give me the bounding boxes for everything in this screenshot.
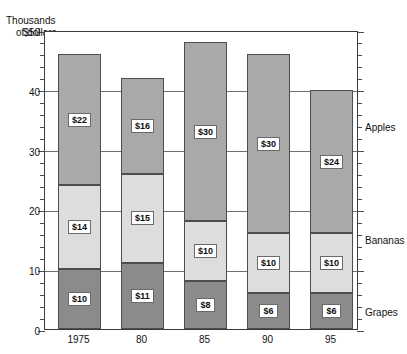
y-axis-minor-tick	[357, 247, 362, 248]
bar-value-label: $11	[131, 289, 154, 303]
series-label-grapes: Grapes	[365, 307, 398, 318]
y-axis-minor-tick	[357, 67, 362, 68]
bar-value-label: $16	[131, 119, 154, 133]
bar-segment-grapes[interactable]: $8	[184, 281, 227, 329]
stacked-bar-chart: Thousands of dollars 010203040$50$10$14$…	[0, 0, 407, 354]
y-axis-minor-tick	[40, 175, 45, 176]
y-axis-minor-tick	[40, 43, 45, 44]
bar-segment-apples[interactable]: $30	[247, 54, 290, 233]
y-axis-label: $50	[23, 27, 40, 38]
y-axis-minor-tick	[40, 115, 45, 116]
y-axis-label: 20	[29, 206, 40, 217]
y-axis-minor-tick	[40, 187, 45, 188]
bar-value-label: $30	[194, 125, 217, 139]
series-label-bananas: Bananas	[365, 235, 404, 246]
axis-title-line-1: Thousands	[6, 15, 55, 26]
x-axis-label-1975: 1975	[57, 334, 100, 345]
y-axis-minor-tick	[40, 103, 45, 104]
bar-segment-grapes[interactable]: $11	[121, 263, 164, 329]
y-axis-minor-tick	[40, 127, 45, 128]
y-axis-tick	[357, 271, 364, 272]
bar-value-label: $6	[322, 304, 340, 318]
y-axis-minor-tick	[40, 283, 45, 284]
y-axis-minor-tick	[40, 307, 45, 308]
y-axis-tick	[357, 331, 364, 332]
bar-segment-bananas[interactable]: $14	[58, 185, 101, 269]
y-axis-minor-tick	[357, 307, 362, 308]
y-axis-minor-tick	[357, 295, 362, 296]
bar-segment-bananas[interactable]: $15	[121, 174, 164, 264]
bar-segment-apples[interactable]: $24	[310, 90, 353, 234]
bar-value-label: $24	[320, 155, 343, 169]
y-axis-minor-tick	[40, 259, 45, 260]
y-axis-minor-tick	[40, 199, 45, 200]
y-axis-tick	[357, 32, 364, 33]
bar-90[interactable]: $6$10$30	[247, 30, 290, 329]
y-axis-minor-tick	[357, 175, 362, 176]
bar-95[interactable]: $6$10$24	[310, 30, 353, 329]
y-axis-minor-tick	[357, 43, 362, 44]
bar-segment-bananas[interactable]: $10	[310, 233, 353, 293]
y-axis-minor-tick	[357, 235, 362, 236]
bar-segment-apples[interactable]: $16	[121, 78, 164, 174]
y-axis-minor-tick	[357, 319, 362, 320]
bar-85[interactable]: $8$10$30	[184, 30, 227, 329]
y-axis-minor-tick	[357, 139, 362, 140]
bar-value-label: $10	[320, 256, 343, 270]
x-axis-label-80: 80	[120, 334, 163, 345]
bar-80[interactable]: $11$15$16	[121, 30, 164, 329]
y-axis-minor-tick	[357, 55, 362, 56]
bar-segment-grapes[interactable]: $10	[58, 269, 101, 329]
bar-value-label: $10	[68, 292, 91, 306]
y-axis-minor-tick	[40, 67, 45, 68]
bar-segment-grapes[interactable]: $6	[247, 293, 290, 329]
y-axis-minor-tick	[357, 103, 362, 104]
y-axis-minor-tick	[357, 127, 362, 128]
y-axis-minor-tick	[357, 223, 362, 224]
y-axis-minor-tick	[357, 79, 362, 80]
y-axis-minor-tick	[40, 79, 45, 80]
y-axis-minor-tick	[40, 223, 45, 224]
bar-segment-bananas[interactable]: $10	[247, 233, 290, 293]
bar-value-label: $30	[257, 137, 280, 151]
bar-segment-bananas[interactable]: $10	[184, 221, 227, 281]
y-axis-minor-tick	[40, 295, 45, 296]
y-axis-minor-tick	[40, 163, 45, 164]
bar-value-label: $15	[131, 211, 154, 225]
plot-area: 010203040$50$10$14$22$11$15$16$8$10$30$6…	[44, 31, 358, 330]
x-axis-label-95: 95	[309, 334, 352, 345]
bar-value-label: $10	[194, 244, 217, 258]
y-axis-minor-tick	[40, 139, 45, 140]
x-axis-label-90: 90	[246, 334, 289, 345]
bar-segment-apples[interactable]: $30	[184, 42, 227, 221]
y-axis-minor-tick	[357, 283, 362, 284]
x-axis-label-85: 85	[183, 334, 226, 345]
y-axis-minor-tick	[40, 235, 45, 236]
y-axis-tick	[357, 211, 364, 212]
y-axis-minor-tick	[357, 187, 362, 188]
y-axis-label: 40	[29, 86, 40, 97]
series-label-apples: Apples	[365, 121, 396, 132]
y-axis-label: 10	[29, 266, 40, 277]
y-axis-minor-tick	[40, 55, 45, 56]
y-axis-minor-tick	[357, 259, 362, 260]
y-axis-label: 0	[34, 326, 40, 337]
y-axis-tick	[357, 151, 364, 152]
bar-1975[interactable]: $10$14$22	[58, 30, 101, 329]
y-axis-label: 30	[29, 146, 40, 157]
bar-value-label: $22	[68, 113, 91, 127]
bar-value-label: $10	[257, 256, 280, 270]
y-axis-minor-tick	[357, 115, 362, 116]
y-axis-tick	[357, 91, 364, 92]
bar-value-label: $8	[196, 298, 214, 312]
bar-value-label: $14	[68, 220, 91, 234]
bar-segment-grapes[interactable]: $6	[310, 293, 353, 329]
y-axis-minor-tick	[357, 199, 362, 200]
y-axis-minor-tick	[40, 319, 45, 320]
y-axis-minor-tick	[40, 247, 45, 248]
y-axis-minor-tick	[357, 163, 362, 164]
bar-segment-apples[interactable]: $22	[58, 54, 101, 186]
bar-value-label: $6	[259, 304, 277, 318]
